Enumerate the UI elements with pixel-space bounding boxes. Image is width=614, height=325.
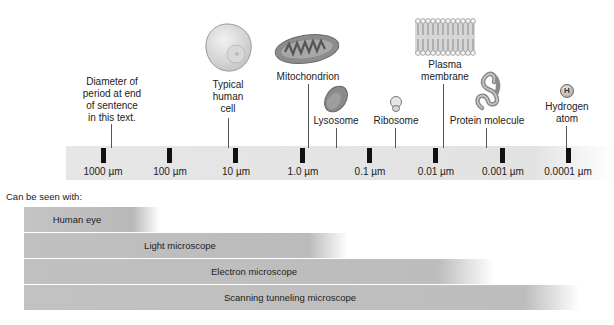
label-protein-molecule: Protein molecule (446, 115, 528, 127)
label-line: human (206, 91, 250, 103)
label-line: membrane (416, 71, 474, 83)
tick-0-001um (500, 148, 505, 163)
label-line: Lysosome (311, 115, 361, 127)
hydrogen-atom-icon: H (560, 84, 574, 98)
tick-100um (167, 148, 172, 163)
tick-label: 1.0 µm (288, 166, 319, 177)
label-line: Protein molecule (446, 115, 528, 127)
bar-electron-microscope: Electron microscope (24, 259, 494, 284)
leader-line (395, 128, 396, 148)
label-line: Hydrogen (543, 101, 591, 113)
ribosome-icon (388, 96, 404, 113)
plasma-membrane-icon (414, 18, 476, 56)
mitochondrion-icon (273, 32, 341, 66)
leader-line (566, 126, 567, 148)
bar-scanning-tunneling-microscope: Scanning tunneling microscope (24, 285, 580, 310)
scale-band (66, 146, 614, 180)
bar-label: Human eye (53, 214, 102, 225)
label-line: atom (543, 113, 591, 125)
label-line: Mitochondrion (270, 71, 346, 83)
tick-label: 0.1 µm (355, 166, 386, 177)
tick-0-1um (367, 148, 372, 163)
leader-line (443, 84, 444, 148)
seen-with-label: Can be seen with: (6, 191, 82, 202)
bar-light-microscope: Light microscope (24, 233, 348, 258)
label-hydrogen-atom: Hydrogen atom (543, 101, 591, 125)
label-cell: Typical human cell (206, 79, 250, 115)
label-lysosome: Lysosome (311, 115, 361, 127)
label-line: of sentence (78, 100, 146, 112)
bar-label: Scanning tunneling microscope (224, 292, 356, 303)
tick-10um (233, 148, 238, 163)
label-line: Typical (206, 79, 250, 91)
tick-label: 0.01 µm (418, 166, 454, 177)
label-mitochondrion: Mitochondrion (270, 71, 346, 83)
label-plasma-membrane: Plasma membrane (416, 59, 474, 83)
label-line: cell (206, 103, 250, 115)
label-line: Diameter of (78, 76, 146, 88)
tick-1000um (101, 148, 106, 163)
tick-label: 0.0001 µm (544, 166, 591, 177)
bar-human-eye: Human eye (24, 207, 160, 232)
label-ribosome: Ribosome (371, 115, 421, 127)
leader-line (111, 124, 112, 148)
human-cell-icon (203, 22, 255, 74)
leader-line (336, 128, 337, 148)
leader-line (308, 84, 309, 148)
tick-label: 100 µm (153, 166, 187, 177)
tick-0-01um (433, 148, 438, 163)
lysosome-icon (322, 84, 350, 114)
label-line: Ribosome (371, 115, 421, 127)
tick-label: 10 µm (222, 166, 250, 177)
label-line: in this text. (78, 112, 146, 124)
leader-line (228, 118, 229, 148)
label-line: Plasma (416, 59, 474, 71)
tick-1um (300, 148, 305, 163)
label-line: period at end (78, 88, 146, 100)
leader-line (486, 128, 487, 148)
label-period: Diameter of period at end of sentence in… (78, 76, 146, 124)
tick-label: 0.001 µm (482, 166, 524, 177)
tick-label: 1000 µm (83, 166, 122, 177)
protein-molecule-icon (470, 68, 504, 114)
bar-label: Light microscope (144, 240, 216, 251)
bar-label: Electron microscope (211, 266, 297, 277)
tick-0-0001um (566, 148, 571, 163)
